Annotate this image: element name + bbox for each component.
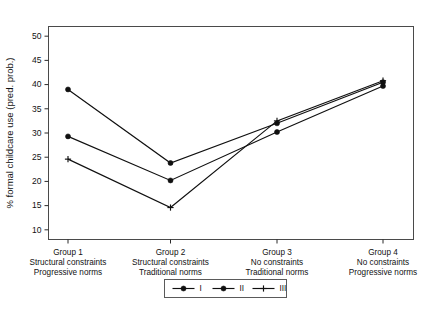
y-tick-label: 20: [32, 176, 42, 186]
x-group-sublabel: Progressive norms: [34, 268, 102, 277]
y-tick-label: 35: [32, 104, 42, 114]
legend-marker-dot: [221, 286, 226, 291]
data-point-dot: [168, 178, 173, 183]
y-tick-label: 25: [32, 152, 42, 162]
y-axis-title: % formal childcare use (pred. prob.): [4, 57, 15, 208]
x-group-label: Group 4: [368, 248, 398, 257]
x-group-label: Group 3: [262, 248, 292, 257]
line-chart: 101520253035404550 % formal childcare us…: [0, 0, 434, 312]
y-tick-label: 50: [32, 31, 42, 41]
y-tick-label: 10: [32, 225, 42, 235]
x-group-label: Group 2: [156, 248, 186, 257]
y-tick-label: 40: [32, 79, 42, 89]
chart-legend: IIIIII: [165, 280, 287, 298]
data-point-dot: [66, 134, 71, 139]
legend-label: III: [280, 284, 287, 293]
legend-label: II: [240, 284, 245, 293]
chart-figure: 101520253035404550 % formal childcare us…: [0, 0, 434, 312]
data-point-dot: [168, 161, 173, 166]
x-group-sublabel: Structural constraints: [30, 258, 107, 267]
x-group-sublabel: Structural constraints: [132, 258, 209, 267]
x-group-sublabel: Traditional norms: [246, 268, 309, 277]
data-point-dot: [381, 84, 386, 89]
x-group-sublabel: No constraints: [251, 258, 303, 267]
x-group-sublabel: Progressive norms: [349, 268, 417, 277]
data-point-dot: [66, 87, 71, 92]
legend-label: I: [200, 284, 202, 293]
x-group-label: Group 1: [53, 248, 83, 257]
y-tick-label: 45: [32, 55, 42, 65]
y-tick-label: 15: [32, 200, 42, 210]
x-group-sublabel: No constraints: [357, 258, 409, 267]
legend-marker-dot: [181, 286, 186, 291]
x-group-sublabel: Traditional norms: [139, 268, 202, 277]
data-point-dot: [275, 130, 280, 135]
y-tick-label: 30: [32, 128, 42, 138]
